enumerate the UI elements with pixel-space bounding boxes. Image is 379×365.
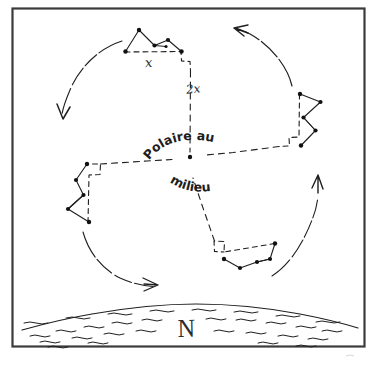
ground-hatch bbox=[136, 330, 156, 332]
star bbox=[87, 220, 91, 224]
pointer-dashed-left bbox=[88, 164, 101, 223]
star bbox=[238, 266, 242, 270]
star bbox=[164, 45, 167, 48]
diagram-canvas: Polaire au milieu bbox=[0, 0, 379, 365]
star bbox=[179, 49, 183, 53]
pointer-dashed-bottom bbox=[214, 241, 275, 252]
arrowhead-bottom-left bbox=[143, 278, 158, 291]
center-label-polaire: Polaire au bbox=[140, 128, 216, 162]
star bbox=[85, 162, 89, 166]
ground-hatch bbox=[56, 330, 76, 332]
star bbox=[222, 257, 226, 261]
constellation-right bbox=[206, 92, 323, 155]
star-link-left bbox=[68, 164, 89, 222]
star-link-left-b bbox=[68, 195, 84, 209]
star bbox=[301, 115, 305, 119]
pointer-dashed-right bbox=[279, 94, 300, 147]
ground-hatch bbox=[246, 332, 266, 334]
star bbox=[152, 43, 156, 47]
horizon-ground bbox=[22, 304, 358, 348]
ground-hatch bbox=[192, 309, 216, 311]
stray-mark bbox=[346, 355, 354, 356]
ground-hatch bbox=[30, 335, 50, 337]
star bbox=[273, 241, 277, 245]
rotation-arrow-top-left bbox=[57, 41, 122, 119]
star bbox=[166, 38, 170, 42]
ground-hatch bbox=[150, 310, 174, 312]
ground-hatch bbox=[104, 333, 124, 335]
star bbox=[74, 178, 78, 182]
ground-hatch bbox=[296, 326, 316, 328]
rotation-arrow-bottom-right bbox=[272, 175, 323, 276]
ground-hatch bbox=[236, 319, 256, 321]
ground-hatch bbox=[72, 337, 92, 339]
star bbox=[298, 92, 302, 96]
ground-hatch bbox=[142, 319, 162, 321]
star bbox=[123, 49, 127, 53]
polaris-star bbox=[188, 155, 192, 159]
arrowhead-bottom-right bbox=[312, 175, 323, 193]
pointer-dashed-right-long bbox=[206, 147, 279, 156]
ground-hatch bbox=[258, 342, 278, 344]
center-label-milieu: milieu bbox=[168, 172, 211, 195]
rotation-arrow-bottom-left bbox=[83, 232, 158, 291]
star bbox=[318, 100, 322, 104]
ground-hatch bbox=[234, 311, 258, 313]
pointer-dashed-top bbox=[125, 52, 191, 72]
ground-hatch bbox=[108, 313, 132, 315]
star bbox=[313, 128, 317, 132]
ground-hatch bbox=[206, 318, 226, 320]
star bbox=[299, 143, 303, 147]
ground-hatch bbox=[84, 326, 104, 328]
diagram-page: Polaire au milieu x 2x N bbox=[0, 0, 379, 365]
star bbox=[66, 207, 70, 211]
star bbox=[137, 28, 141, 32]
star bbox=[81, 193, 85, 197]
star bbox=[268, 257, 272, 261]
rotation-arrow-top-right bbox=[234, 25, 292, 86]
arc-top-left bbox=[62, 41, 122, 116]
ground-hatch bbox=[214, 330, 234, 332]
star bbox=[255, 260, 259, 264]
ground-hatch bbox=[278, 335, 298, 337]
star-link-right bbox=[300, 94, 321, 146]
ground-hatch bbox=[322, 330, 342, 332]
ground-hatch bbox=[24, 322, 48, 324]
pointer-dashed-left-long bbox=[101, 160, 173, 165]
ground-hatch bbox=[112, 322, 132, 324]
constellation-left bbox=[66, 160, 172, 225]
star-link-bottom bbox=[224, 244, 275, 269]
star-link-right-b bbox=[304, 118, 316, 131]
ground-hatch bbox=[88, 342, 108, 344]
arc-bottom-right bbox=[272, 200, 318, 276]
arrowhead-top-right bbox=[234, 25, 248, 36]
ground-hatch bbox=[276, 315, 300, 317]
arc-top-right bbox=[237, 29, 292, 87]
frame-border bbox=[13, 9, 365, 347]
ground-hatch bbox=[308, 338, 328, 340]
star-link-top bbox=[126, 30, 182, 52]
ground-hatch bbox=[266, 322, 286, 324]
ground-hatch bbox=[40, 341, 60, 343]
